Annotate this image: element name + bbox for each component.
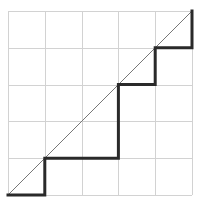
grid-step-function-figure	[0, 0, 203, 210]
figure-container	[0, 0, 203, 210]
figure-background	[0, 0, 203, 210]
